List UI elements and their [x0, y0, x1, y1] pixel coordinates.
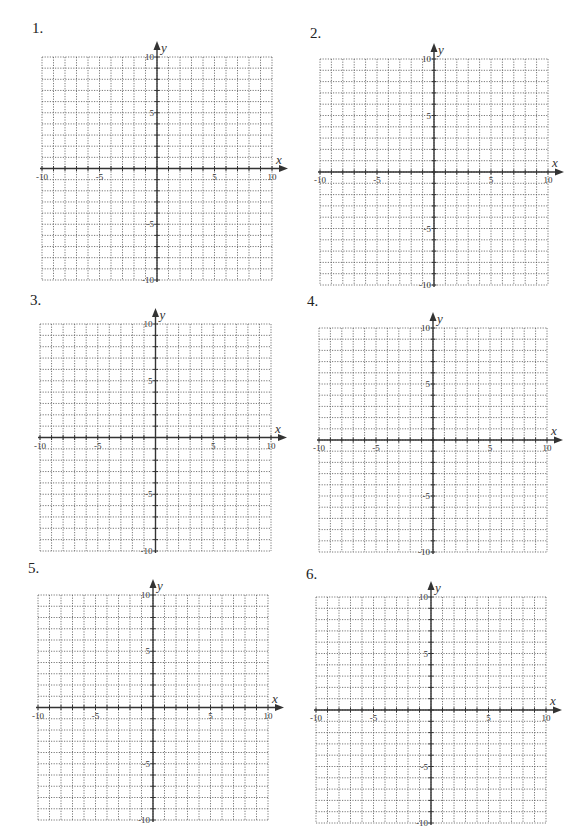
x-tick-label: -5 — [370, 713, 378, 723]
x-tick-label: 5 — [486, 713, 491, 723]
y-tick-label: -10 — [416, 818, 428, 828]
x-axis-label: x — [549, 693, 556, 708]
coordinate-plane: xy-10-5510105-5-10 — [0, 0, 587, 840]
y-arrow-icon — [428, 581, 435, 590]
y-tick-label: -5 — [421, 762, 429, 772]
y-axis-label: y — [433, 580, 441, 595]
x-tick-label: -10 — [310, 713, 322, 723]
y-tick-label: 10 — [419, 592, 429, 602]
x-tick-label: 10 — [542, 713, 552, 723]
y-tick-label: 5 — [424, 649, 429, 659]
